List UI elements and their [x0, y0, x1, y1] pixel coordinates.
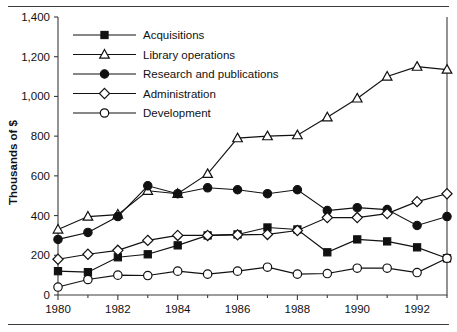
- figure-container: Thousands of $ 02004006008001,0001,2001,…: [0, 0, 457, 332]
- data-point-marker: [293, 270, 301, 278]
- data-point-marker: [144, 271, 152, 279]
- x-tick-label: 1986: [225, 303, 251, 315]
- y-tick-label: 400: [31, 210, 50, 222]
- y-tick-label: 1,200: [21, 51, 50, 63]
- data-point-marker: [323, 112, 333, 121]
- data-point-marker: [322, 212, 332, 222]
- data-point-marker: [114, 271, 122, 279]
- data-point-marker: [203, 270, 211, 278]
- x-tick-label: 1984: [165, 303, 191, 315]
- data-point-marker: [413, 244, 420, 251]
- legend-label: Library operations: [143, 49, 235, 61]
- data-point-marker: [353, 203, 361, 211]
- data-point-marker: [83, 249, 93, 259]
- legend-label: Administration: [143, 88, 216, 100]
- data-point-marker: [144, 251, 151, 258]
- y-axis-title-text: Thousands of $: [7, 119, 19, 205]
- data-point-marker: [323, 269, 331, 277]
- y-tick-label: 800: [31, 130, 50, 142]
- data-point-marker: [54, 268, 61, 275]
- data-point-marker: [324, 249, 331, 256]
- series-line: [58, 67, 447, 230]
- legend-label: Research and publications: [143, 68, 279, 80]
- series-layer: [53, 62, 452, 292]
- legend-item-research-and-publications[interactable]: Research and publications: [73, 68, 279, 80]
- x-tick-label: 1992: [404, 303, 430, 315]
- data-point-marker: [174, 242, 181, 249]
- data-point-marker: [173, 267, 181, 275]
- data-point-marker: [54, 235, 62, 243]
- y-tick-label: 600: [31, 170, 50, 182]
- data-point-marker: [413, 268, 421, 276]
- data-point-marker: [263, 263, 271, 271]
- data-point-marker: [442, 189, 452, 199]
- data-point-marker: [233, 267, 241, 275]
- series-library-operations: [53, 62, 452, 233]
- data-point-marker: [233, 186, 241, 194]
- y-axis-title: Thousands of $: [7, 119, 19, 205]
- data-point-marker: [352, 212, 362, 222]
- data-point-marker: [84, 228, 92, 236]
- chart-legend: AcquisitionsLibrary operationsResearch a…: [73, 29, 279, 119]
- data-point-marker: [443, 212, 451, 220]
- legend-item-administration[interactable]: Administration: [73, 88, 216, 100]
- data-point-marker: [383, 264, 391, 272]
- legend-marker-open-triangle-icon: [100, 50, 110, 59]
- legend-marker-open-diamond-icon: [99, 88, 109, 98]
- legend-item-library-operations[interactable]: Library operations: [73, 49, 235, 61]
- x-tick-label: 1988: [285, 303, 311, 315]
- x-tick-label: 1980: [45, 303, 71, 315]
- data-point-marker: [412, 62, 422, 71]
- data-point-marker: [173, 230, 183, 240]
- data-point-marker: [203, 184, 211, 192]
- data-point-marker: [412, 197, 422, 207]
- legend-label: Acquisitions: [143, 29, 205, 41]
- data-point-marker: [263, 190, 271, 198]
- legend-item-development[interactable]: Development: [73, 107, 212, 119]
- x-tick-label: 1990: [344, 303, 370, 315]
- y-tick-label: 0: [44, 289, 50, 301]
- y-tick-label: 1,000: [21, 90, 50, 102]
- y-tick-label: 200: [31, 249, 50, 261]
- legend-item-acquisitions[interactable]: Acquisitions: [73, 29, 205, 41]
- data-point-marker: [84, 275, 92, 283]
- data-point-marker: [353, 264, 361, 272]
- data-point-marker: [54, 283, 62, 291]
- legend-label: Development: [143, 107, 212, 119]
- data-point-marker: [143, 235, 153, 245]
- data-point-marker: [413, 221, 421, 229]
- data-point-marker: [263, 131, 273, 140]
- data-point-marker: [84, 269, 91, 276]
- data-point-marker: [144, 182, 152, 190]
- legend-marker-filled-circle-icon: [100, 70, 108, 78]
- data-point-marker: [293, 130, 303, 139]
- x-tick-label: 1982: [105, 303, 131, 315]
- bottom-rule: [8, 324, 449, 325]
- y-axis-ticks: 02004006008001,0001,2001,400: [21, 11, 58, 301]
- legend-marker-filled-square-icon: [101, 31, 108, 38]
- line-chart: Thousands of $ 02004006008001,0001,2001,…: [0, 0, 457, 332]
- x-axis-ticks: 1980198219841986198819901992: [45, 295, 447, 315]
- data-point-marker: [293, 186, 301, 194]
- data-point-marker: [354, 236, 361, 243]
- y-tick-label: 1,400: [21, 11, 50, 23]
- data-point-marker: [53, 224, 63, 233]
- legend-marker-open-circle-icon: [100, 109, 108, 117]
- series-administration: [53, 189, 452, 265]
- data-point-marker: [384, 238, 391, 245]
- data-point-marker: [114, 212, 122, 220]
- data-point-marker: [173, 190, 181, 198]
- top-rule: [8, 6, 449, 7]
- data-point-marker: [443, 254, 451, 262]
- data-point-marker: [352, 93, 362, 102]
